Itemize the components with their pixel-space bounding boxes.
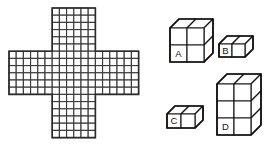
grid-cell	[81, 15, 88, 22]
grid-cell	[16, 58, 23, 65]
grid-cell	[23, 51, 30, 58]
grid-cell	[81, 73, 88, 80]
grid-cell	[88, 15, 95, 22]
grid-cell	[74, 44, 81, 51]
grid-cell	[52, 116, 59, 123]
grid-cell	[67, 130, 74, 137]
cube-front-face	[234, 84, 251, 101]
grid-cell	[67, 15, 74, 22]
grid-cell	[110, 51, 117, 58]
grid-cell	[59, 58, 66, 65]
grid-cell	[74, 51, 81, 58]
grid-cell	[52, 30, 59, 37]
grid-cell	[67, 30, 74, 37]
grid-cell	[59, 87, 66, 94]
grid-cell	[59, 130, 66, 137]
grid-cell	[59, 109, 66, 116]
grid-cell	[117, 51, 124, 58]
grid-cell	[88, 51, 95, 58]
grid-cell	[88, 66, 95, 73]
grid-cell	[74, 30, 81, 37]
grid-cell	[131, 87, 138, 94]
grid-cell	[103, 80, 110, 87]
grid-cell	[74, 87, 81, 94]
cube-front-face	[181, 114, 195, 128]
block-a: A	[170, 19, 213, 62]
grid-cell	[103, 51, 110, 58]
cube-blocks-group: ABCD	[167, 19, 261, 135]
grid-cell	[52, 44, 59, 51]
grid-cell	[59, 94, 66, 101]
grid-cell	[81, 30, 88, 37]
grid-cell	[67, 116, 74, 123]
grid-cell	[45, 73, 52, 80]
grid-cell	[67, 123, 74, 130]
grid-cell	[31, 73, 38, 80]
grid-cell	[124, 80, 131, 87]
grid-cell	[88, 73, 95, 80]
grid-cell	[103, 58, 110, 65]
grid-cell	[31, 80, 38, 87]
grid-cell	[74, 58, 81, 65]
grid-cell	[74, 94, 81, 101]
grid-cell	[81, 37, 88, 44]
grid-cell	[124, 73, 131, 80]
grid-cell	[67, 80, 74, 87]
grid-cell	[74, 22, 81, 29]
grid-cell	[59, 30, 66, 37]
grid-cell	[59, 66, 66, 73]
grid-cell	[131, 73, 138, 80]
grid-cell	[95, 73, 102, 80]
grid-cell	[117, 58, 124, 65]
grid-cell	[9, 80, 16, 87]
grid-cell	[59, 37, 66, 44]
grid-cell	[52, 37, 59, 44]
grid-cell	[31, 87, 38, 94]
grid-cell	[52, 109, 59, 116]
block-b: B	[219, 36, 253, 57]
grid-cell	[81, 102, 88, 109]
grid-cell	[38, 66, 45, 73]
grid-cell	[9, 73, 16, 80]
grid-cell	[103, 73, 110, 80]
grid-cell	[81, 66, 88, 73]
grid-cell	[59, 123, 66, 130]
grid-cell	[67, 44, 74, 51]
grid-cell	[52, 130, 59, 137]
grid-cell	[81, 123, 88, 130]
grid-cell	[67, 87, 74, 94]
grid-cell	[88, 102, 95, 109]
grid-cell	[81, 130, 88, 137]
grid-cell	[59, 116, 66, 123]
grid-cell	[110, 73, 117, 80]
cube-front-face	[232, 44, 245, 57]
grid-cell	[45, 87, 52, 94]
grid-cell	[74, 123, 81, 130]
grid-cell	[103, 66, 110, 73]
grid-cell	[67, 66, 74, 73]
grid-cell	[117, 80, 124, 87]
grid-cell	[16, 66, 23, 73]
grid-cell	[74, 66, 81, 73]
grid-cell	[88, 58, 95, 65]
grid-cell	[81, 22, 88, 29]
grid-cell	[59, 8, 66, 15]
grid-cell	[81, 51, 88, 58]
grid-cell	[88, 30, 95, 37]
grid-cell	[52, 123, 59, 130]
grid-cell	[110, 80, 117, 87]
grid-cell	[16, 51, 23, 58]
grid-cell	[67, 22, 74, 29]
grid-cell	[59, 80, 66, 87]
grid-cell	[16, 73, 23, 80]
grid-cell	[95, 80, 102, 87]
grid-cell	[67, 51, 74, 58]
grid-cell	[74, 8, 81, 15]
grid-cell	[67, 109, 74, 116]
grid-cell	[88, 80, 95, 87]
grid-cell	[67, 94, 74, 101]
grid-cell	[52, 58, 59, 65]
grid-cell	[124, 58, 131, 65]
grid-cell	[38, 87, 45, 94]
grid-cell	[88, 94, 95, 101]
